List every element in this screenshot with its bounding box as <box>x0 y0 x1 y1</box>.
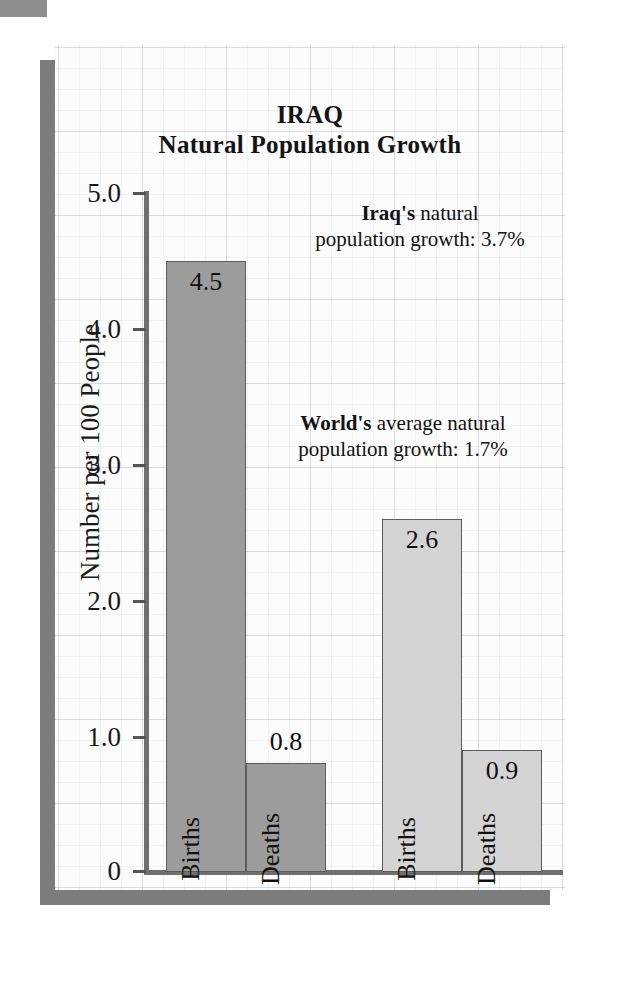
annotation-world-lead: World's <box>300 411 371 435</box>
annotation-world-rest: average natural <box>372 411 506 435</box>
bar-world-births[interactable]: 2.6 Births <box>382 519 462 872</box>
y-tick-label-5: 5.0 <box>87 178 121 209</box>
bar-category-world-deaths: Deaths <box>472 813 502 885</box>
panel-shadow-bottom <box>40 890 550 905</box>
bar-iraq-deaths[interactable]: Deaths <box>246 763 326 872</box>
annotation-world-line2: population growth: 1.7% <box>253 436 553 462</box>
y-tick-mark-0 <box>133 870 146 873</box>
y-tick-label-1: 1.0 <box>87 722 121 753</box>
bar-value-iraq-births: 4.5 <box>167 267 245 297</box>
annotation-world: World's average natural population growt… <box>253 410 553 462</box>
y-axis-title: Number per 100 People <box>75 213 106 693</box>
chart-panel: IRAQ Natural Population Growth 5.0 4.0 3… <box>55 45 565 890</box>
y-tick-mark-4 <box>133 328 146 331</box>
panel-shadow-left <box>40 60 55 905</box>
bar-value-world-births: 2.6 <box>383 525 461 555</box>
annotation-iraq-line1: Iraq's natural <box>285 200 555 226</box>
bar-iraq-births[interactable]: 4.5 Births <box>166 261 246 872</box>
bar-category-world-births: Births <box>392 817 422 881</box>
annotation-iraq-line2: population growth: 3.7% <box>285 226 555 252</box>
bar-value-iraq-deaths: 0.8 <box>246 727 326 757</box>
page-crop-artifact <box>0 0 47 17</box>
bar-category-iraq-births: Births <box>176 817 206 881</box>
annotation-world-line1: World's average natural <box>253 410 553 436</box>
y-tick-mark-2 <box>133 600 146 603</box>
y-axis-line <box>144 191 149 873</box>
annotation-iraq-lead: Iraq's <box>361 201 415 225</box>
bar-category-iraq-deaths: Deaths <box>256 813 286 885</box>
bar-world-deaths[interactable]: 0.9 Deaths <box>462 750 542 872</box>
plot-area: 5.0 4.0 3.0 2.0 1.0 0 Number per 100 Peo… <box>55 45 565 890</box>
y-tick-mark-5 <box>133 192 146 195</box>
y-tick-mark-1 <box>133 736 146 739</box>
bar-value-world-deaths: 0.9 <box>463 756 541 786</box>
annotation-iraq-rest: natural <box>415 201 479 225</box>
annotation-iraq: Iraq's natural population growth: 3.7% <box>285 200 555 252</box>
y-tick-label-0: 0 <box>108 856 122 887</box>
y-tick-mark-3 <box>133 464 146 467</box>
